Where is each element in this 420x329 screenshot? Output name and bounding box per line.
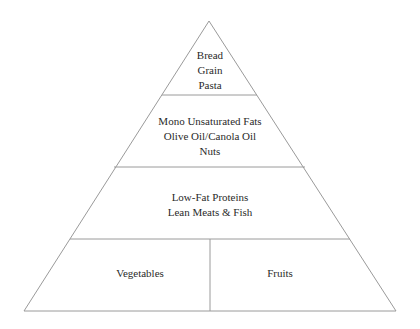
tier-top-label: Bread Grain Pasta: [160, 48, 260, 93]
tier-upper-middle-line-1: Mono Unsaturated Fats: [110, 114, 310, 129]
tier-base-right-line-1: Fruits: [220, 266, 340, 281]
tier-lower-middle-line-1: Low-Fat Proteins: [110, 190, 310, 205]
tier-base-left-line-1: Vegetables: [80, 266, 200, 281]
tier-upper-middle-label: Mono Unsaturated Fats Olive Oil/Canola O…: [110, 114, 310, 159]
tier-upper-middle-line-2: Olive Oil/Canola Oil: [110, 129, 310, 144]
tier-base-fruits-label: Fruits: [220, 266, 340, 281]
tier-top-line-3: Pasta: [160, 78, 260, 93]
tier-top-line-2: Grain: [160, 63, 260, 78]
tier-top-line-1: Bread: [160, 48, 260, 63]
tier-base-vegetables-label: Vegetables: [80, 266, 200, 281]
tier-upper-middle-line-3: Nuts: [110, 144, 310, 159]
tier-lower-middle-line-2: Lean Meats & Fish: [110, 205, 310, 220]
tier-lower-middle-label: Low-Fat Proteins Lean Meats & Fish: [110, 190, 310, 220]
